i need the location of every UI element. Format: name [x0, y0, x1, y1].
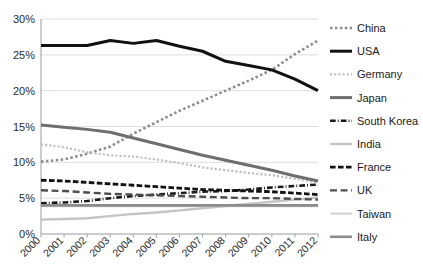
series-line-usa	[41, 41, 318, 91]
x-tick-label-7: 2007	[179, 234, 204, 259]
legend-label-india: India	[357, 138, 382, 150]
legend-label-japan: Japan	[357, 92, 387, 104]
y-tick-label-5: 25%	[13, 49, 35, 61]
x-tick-label-1: 2001	[40, 234, 65, 259]
x-tick-label-4: 2004	[110, 234, 135, 259]
series-line-india	[41, 197, 318, 219]
x-tick-label-5: 2005	[133, 234, 158, 259]
legend-label-china: China	[357, 22, 387, 34]
x-tick-label-6: 2006	[156, 234, 181, 259]
x-tick-label-3: 2003	[87, 234, 112, 259]
line-chart: 0%5%10%15%20%25%30% 20002001200220032004…	[0, 0, 423, 278]
x-tick-label-2: 2002	[64, 234, 89, 259]
series-line-china	[41, 41, 318, 162]
legend-label-south-korea: South Korea	[357, 115, 419, 127]
x-tick-label-8: 2008	[202, 234, 227, 259]
x-tick-label-9: 2009	[225, 234, 250, 259]
series-line-france	[41, 180, 318, 194]
y-tick-label-2: 10%	[13, 156, 35, 168]
chart-legend: ChinaUSAGermanyJapanSouth KoreaIndiaFran…	[330, 22, 419, 243]
y-axis-tick-labels: 0%5%10%15%20%25%30%	[13, 13, 35, 240]
legend-label-taiwan: Taiwan	[357, 208, 391, 220]
x-axis-tick-labels: 2000200120022003200420052006200720082009…	[17, 234, 319, 259]
data-series-layer	[41, 41, 318, 220]
legend-label-germany: Germany	[357, 68, 403, 80]
y-tick-label-3: 15%	[13, 121, 35, 133]
y-tick-label-1: 5%	[19, 192, 35, 204]
legend-label-usa: USA	[357, 45, 380, 57]
y-tick-label-4: 20%	[13, 85, 35, 97]
y-tick-label-6: 30%	[13, 13, 35, 25]
legend-label-italy: Italy	[357, 231, 378, 243]
legend-label-france: France	[357, 161, 391, 173]
series-line-japan	[41, 125, 318, 181]
legend-label-uk: UK	[357, 184, 373, 196]
x-tick-label-10: 2010	[248, 234, 273, 259]
chart-canvas: 0%5%10%15%20%25%30% 20002001200220032004…	[0, 0, 423, 278]
x-tick-label-11: 2011	[272, 234, 297, 259]
x-tick-label-12: 2012	[294, 234, 319, 259]
